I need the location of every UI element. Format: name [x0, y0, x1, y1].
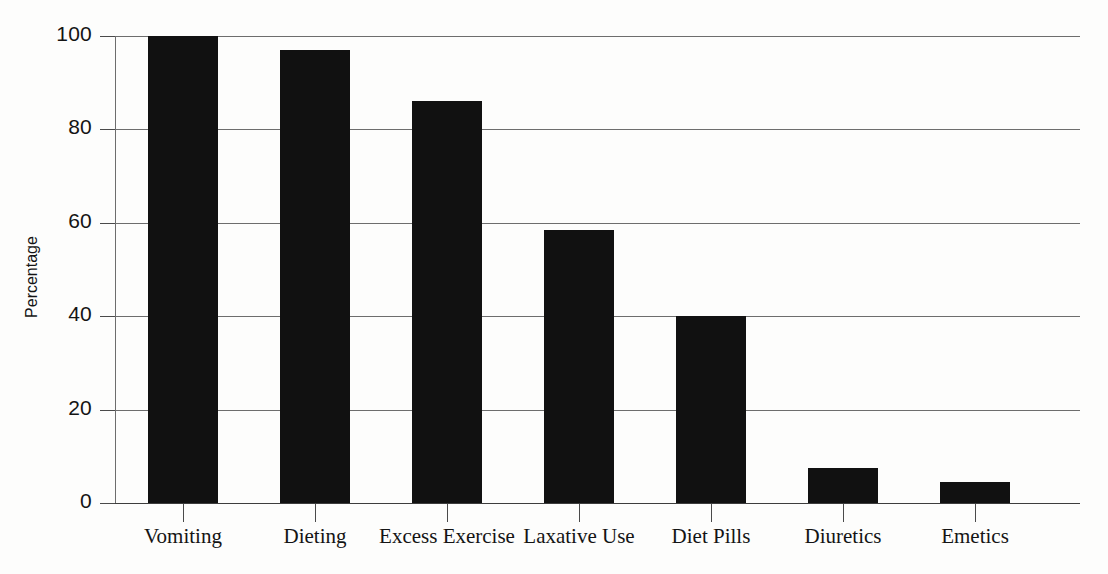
y-axis-tick-label: 20: [40, 396, 92, 420]
gridline: [115, 223, 1080, 224]
y-axis-tick: [100, 223, 115, 224]
x-axis-category-label: Laxative Use: [523, 524, 634, 549]
bar: [544, 230, 614, 503]
bar: [412, 101, 482, 503]
x-axis-category-label: Vomiting: [144, 524, 222, 549]
y-axis-title-text: Percentage: [23, 236, 41, 318]
x-axis-tick: [843, 504, 844, 522]
y-axis-tick: [100, 36, 115, 37]
y-axis-tick-label: 80: [40, 115, 92, 139]
x-axis-tick: [447, 504, 448, 522]
y-axis-tick-label: 100: [40, 22, 92, 46]
plot-area: [115, 36, 1080, 503]
bar: [280, 50, 350, 503]
y-axis-tick-label: 0: [40, 489, 92, 513]
y-axis-tick: [100, 503, 115, 504]
x-axis-category-label: Dieting: [284, 524, 347, 549]
y-axis-tick-label: 40: [40, 302, 92, 326]
x-axis-category-label: Emetics: [941, 524, 1009, 549]
bar: [148, 36, 218, 503]
gridline: [115, 129, 1080, 130]
x-axis-category-label: Diet Pills: [672, 524, 751, 549]
bar: [676, 316, 746, 503]
x-axis-category-label: Diuretics: [805, 524, 882, 549]
x-axis-tick: [183, 504, 184, 522]
bar: [940, 482, 1010, 503]
chart-figure: Percentage 020406080100 VomitingDietingE…: [0, 0, 1108, 574]
y-axis-tick: [100, 316, 115, 317]
y-axis-tick: [100, 129, 115, 130]
x-axis-tick: [711, 504, 712, 522]
x-axis-tick: [315, 504, 316, 522]
gridline: [115, 36, 1080, 37]
gridline: [115, 503, 1080, 504]
x-axis-tick: [579, 504, 580, 522]
x-axis-tick: [975, 504, 976, 522]
bar: [808, 468, 878, 503]
y-axis-tick-label: 60: [40, 209, 92, 233]
x-axis-category-label: Excess Exercise: [379, 524, 515, 549]
y-axis-tick: [100, 410, 115, 411]
